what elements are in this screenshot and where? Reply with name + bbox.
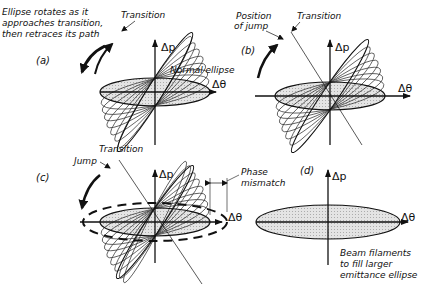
rotation-arrow <box>82 175 100 208</box>
rotation-arrow <box>258 45 277 78</box>
panel-c-label: (c) <box>36 172 49 183</box>
panel-a: Δp Δθ Ellipse rotates as it approaches t… <box>2 7 235 156</box>
jump-label: Jump <box>72 156 97 166</box>
jump-pointer <box>266 31 283 39</box>
position-of-jump-line-1: Position <box>236 11 272 21</box>
panel-d-label: (d) <box>300 165 314 176</box>
caption-line-2: approaches transition, <box>2 18 103 28</box>
dp-axis-label: Δp <box>335 41 350 54</box>
transition-pointer <box>292 22 300 31</box>
normal-ellipse-label: Normal ellipse <box>170 65 235 75</box>
caption-line-2: to fill larger <box>340 259 394 269</box>
diagram-canvas: Δp Δθ Ellipse rotates as it approaches t… <box>0 0 435 291</box>
position-of-jump-line-2: of jump <box>234 21 269 31</box>
dtheta-axis-label: Δθ <box>228 211 243 224</box>
dp-axis-label: Δp <box>332 170 347 183</box>
panel-b-label: (b) <box>241 45 255 56</box>
panel-b: Δp Δθ (b) Position of jump Transition <box>234 11 413 157</box>
rotation-arrow-up <box>95 44 112 74</box>
transition-label: Transition <box>297 11 341 21</box>
caption-line-3: emittance ellipse <box>340 270 418 280</box>
dtheta-axis-label: Δθ <box>212 78 227 91</box>
dtheta-axis-label: Δθ <box>401 211 416 224</box>
dtheta-axis-label: Δθ <box>398 82 413 95</box>
caption-line-3: then retraces its path <box>2 29 100 39</box>
dp-axis-label: Δp <box>161 41 176 54</box>
phase-mismatch-line-1: Phase <box>241 167 268 177</box>
phase-mismatch-pointer <box>227 175 239 181</box>
jump-pointer <box>100 162 110 168</box>
caption-line-1: Beam filaments <box>340 248 411 258</box>
phase-mismatch-line-2: mismatch <box>241 178 286 188</box>
transition-label: Transition <box>121 10 165 20</box>
panel-c: Δp Δθ (c) Transition Jump Phase mismatch <box>36 144 286 286</box>
caption-line-1: Ellipse rotates as it <box>2 7 88 17</box>
dp-axis-label: Δp <box>159 168 174 181</box>
transition-label: Transition <box>99 144 143 154</box>
transition-pointer <box>122 21 135 31</box>
panel-a-label: (a) <box>36 55 50 66</box>
